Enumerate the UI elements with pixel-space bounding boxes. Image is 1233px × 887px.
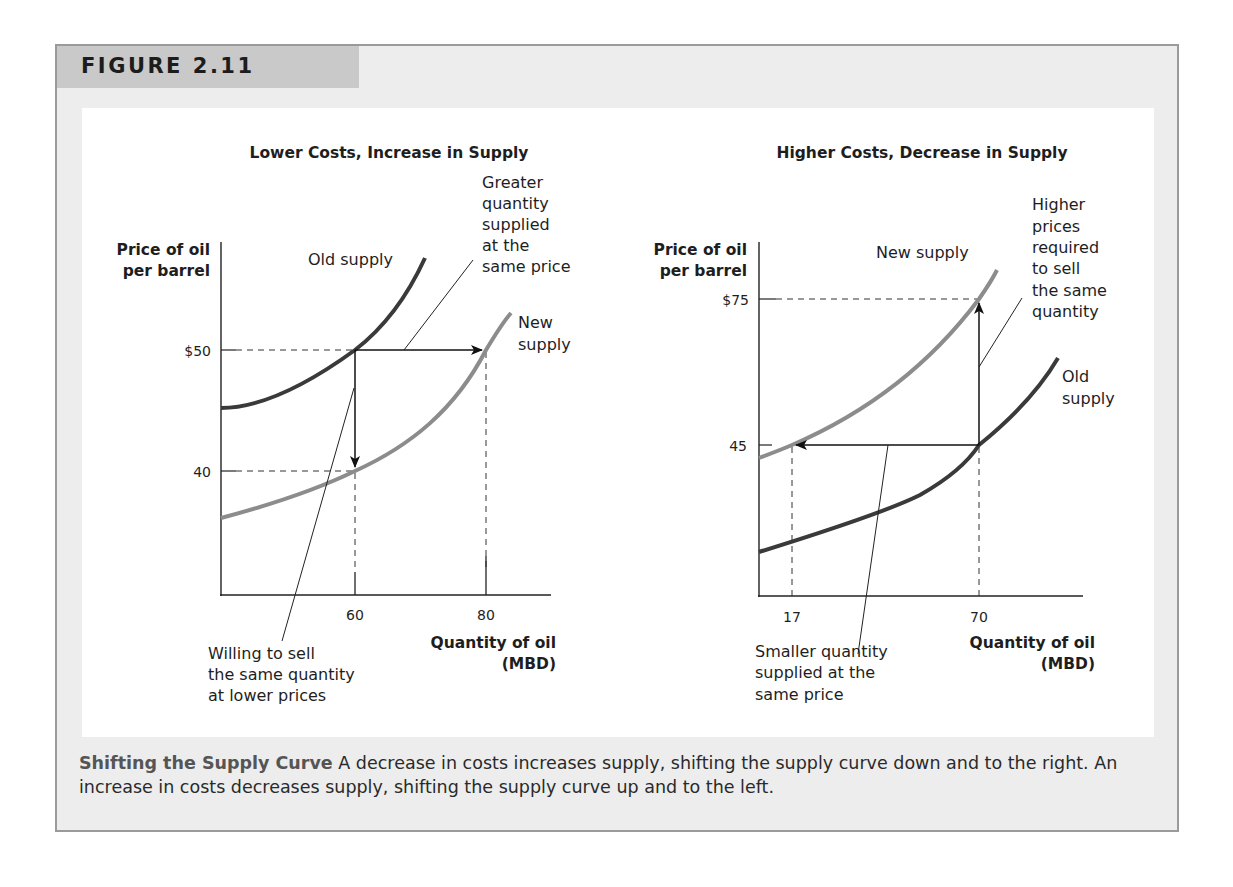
right-new-supply-curve xyxy=(759,270,997,458)
left-annotation-bottom: Willing to sell the same quantity at low… xyxy=(208,644,355,705)
left-old-supply-label: Old supply xyxy=(308,250,393,269)
right-ylabel-1: Price of oil xyxy=(654,241,747,259)
left-chart: Lower Costs, Increase in Supply Price of… xyxy=(117,144,571,705)
svg-text:Higher: Higher xyxy=(1032,195,1086,214)
caption-title: Shifting the Supply Curve xyxy=(79,753,333,773)
left-annotation-top: Greater quantity supplied at the same pr… xyxy=(482,173,570,276)
figure-caption: Shifting the Supply Curve A decrease in … xyxy=(79,751,1159,799)
right-old-supply-label-2: supply xyxy=(1062,389,1115,408)
svg-text:Smaller quantity: Smaller quantity xyxy=(755,642,888,661)
left-xlabel-1: Quantity of oil xyxy=(431,634,556,652)
right-ylabel-2: per barrel xyxy=(660,262,747,280)
right-chart: Higher Costs, Decrease in Supply Price o… xyxy=(654,144,1115,704)
right-new-supply-label: New supply xyxy=(876,243,969,262)
left-ytick-50: $50 xyxy=(184,343,211,359)
left-new-supply-curve xyxy=(221,313,511,518)
svg-text:the same: the same xyxy=(1032,281,1107,300)
left-xlabel-2: (MBD) xyxy=(502,655,556,673)
right-xlabel-2: (MBD) xyxy=(1041,655,1095,673)
svg-text:same price: same price xyxy=(755,685,843,704)
right-chart-title: Higher Costs, Decrease in Supply xyxy=(776,144,1067,162)
svg-text:supplied at the: supplied at the xyxy=(755,663,875,682)
svg-text:quantity: quantity xyxy=(1032,302,1099,321)
svg-text:quantity: quantity xyxy=(482,194,549,213)
right-old-supply-curve xyxy=(759,358,1058,552)
right-annotation-top: Higher prices required to sell the same … xyxy=(1032,195,1107,321)
left-ylabel-1: Price of oil xyxy=(117,241,210,259)
svg-text:supplied: supplied xyxy=(482,215,550,234)
left-ytick-40: 40 xyxy=(193,464,211,480)
svg-text:at the: at the xyxy=(482,236,529,255)
right-annotation-bottom: Smaller quantity supplied at the same pr… xyxy=(755,642,888,704)
left-new-supply-label-1: New xyxy=(518,313,553,332)
svg-text:to sell: to sell xyxy=(1032,259,1080,278)
right-ytick-75: $75 xyxy=(722,292,749,308)
right-ytick-45: 45 xyxy=(729,438,747,454)
left-new-supply-label-2: supply xyxy=(518,335,571,354)
left-old-supply-curve xyxy=(221,258,425,408)
svg-text:the same quantity: the same quantity xyxy=(208,665,355,684)
svg-text:at lower prices: at lower prices xyxy=(208,686,326,705)
right-xlabel-1: Quantity of oil xyxy=(970,634,1095,652)
right-xtick-17: 17 xyxy=(783,609,801,625)
left-ylabel-2: per barrel xyxy=(123,262,210,280)
svg-text:Greater: Greater xyxy=(482,173,543,192)
svg-text:Willing to sell: Willing to sell xyxy=(208,644,315,663)
right-old-supply-label-1: Old xyxy=(1062,367,1089,386)
svg-text:prices: prices xyxy=(1032,217,1080,236)
svg-text:same price: same price xyxy=(482,257,570,276)
svg-text:required: required xyxy=(1032,238,1099,257)
right-xtick-70: 70 xyxy=(970,609,988,625)
left-xtick-60: 60 xyxy=(346,607,364,623)
left-chart-title: Lower Costs, Increase in Supply xyxy=(250,144,529,162)
left-xtick-80: 80 xyxy=(477,607,495,623)
